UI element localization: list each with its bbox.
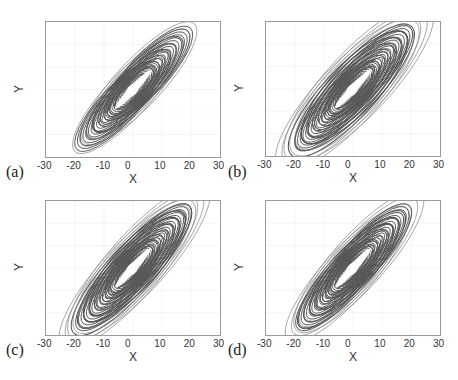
x-tick-label: -20 (286, 338, 300, 349)
x-tick-label: 30 (433, 159, 444, 170)
x-tick-label: -20 (66, 338, 80, 349)
y-axis-label: Y (232, 263, 246, 271)
x-tick-label: 0 (345, 338, 351, 349)
plot-area (45, 21, 221, 158)
trajectory-plot (266, 22, 440, 156)
x-tick-label: 20 (404, 338, 415, 349)
x-axis-label: X (129, 172, 137, 186)
x-tick-label: 30 (433, 338, 444, 349)
x-tick-label: 20 (184, 160, 195, 171)
x-axis-label: X (349, 171, 357, 185)
x-tick-label: -20 (286, 159, 300, 170)
trajectory-plot (46, 201, 220, 335)
x-tick-label: 0 (125, 160, 131, 171)
x-tick-label: 10 (374, 159, 385, 170)
x-axis-label: X (349, 350, 357, 364)
trajectory-plot (46, 22, 220, 157)
x-tick-label: 10 (154, 160, 165, 171)
y-axis-label: Y (12, 84, 26, 92)
x-tick-label: 0 (125, 338, 131, 349)
x-tick-label: -30 (257, 159, 271, 170)
panel-label: (b) (228, 163, 247, 181)
x-tick-label: -10 (316, 338, 330, 349)
x-axis-label: X (129, 350, 137, 364)
plot-area (45, 200, 221, 336)
x-tick-label: 20 (184, 338, 195, 349)
x-tick-label: -30 (257, 338, 271, 349)
y-axis-label: Y (232, 84, 246, 92)
x-tick-label: -10 (316, 159, 330, 170)
trajectory-plot (266, 201, 440, 335)
x-tick-label: 20 (404, 159, 415, 170)
x-tick-label: 10 (154, 338, 165, 349)
x-tick-label: -30 (37, 160, 51, 171)
plot-area (265, 21, 441, 157)
panel-label: (d) (228, 341, 247, 359)
x-tick-label: 0 (345, 159, 351, 170)
x-tick-label: -10 (96, 338, 110, 349)
panel-label: (a) (6, 163, 24, 181)
x-tick-label: 30 (213, 338, 224, 349)
x-tick-label: 30 (213, 160, 224, 171)
plot-area (265, 200, 441, 336)
x-tick-label: 10 (374, 338, 385, 349)
y-axis-label: Y (12, 263, 26, 271)
x-tick-label: -30 (37, 338, 51, 349)
panel-label: (c) (6, 341, 24, 359)
x-tick-label: -10 (96, 160, 110, 171)
x-tick-label: -20 (66, 160, 80, 171)
